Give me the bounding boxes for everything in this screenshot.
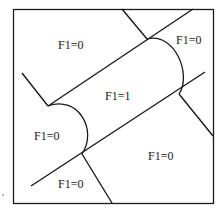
region-label-bottom-right: F1=0 (148, 149, 173, 163)
region-label-top-right: F1=0 (176, 33, 201, 47)
bottom-divider-line (82, 154, 112, 203)
left-divider-line (22, 73, 48, 106)
stray-dot (2, 194, 4, 196)
top-divider-line (122, 9, 147, 39)
region-label-top-left: F1=0 (58, 38, 83, 52)
region-label-center-band: F1=1 (105, 89, 130, 103)
right-divider-line (179, 94, 213, 136)
region-label-left-cap: F1=0 (34, 129, 59, 143)
partition-diagram: F1=0 F1=0 F1=1 F1=0 F1=0 F1=0 (0, 0, 220, 212)
region-label-bottom-middle: F1=0 (58, 177, 83, 191)
